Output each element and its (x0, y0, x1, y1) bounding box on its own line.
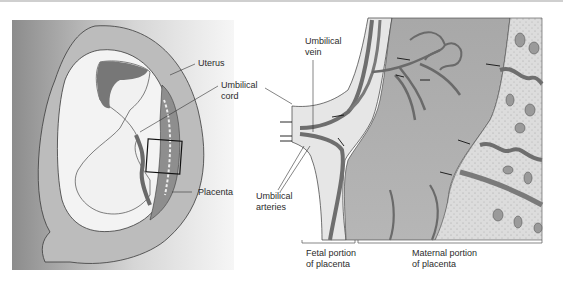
label-uterus: Uterus (198, 58, 225, 69)
left-panel-uterus (12, 20, 292, 270)
label-umbilical-vein: Umbilical vein (305, 36, 342, 58)
label-placenta: Placenta (198, 187, 233, 198)
label-maternal-portion: Maternal portion of placenta (412, 248, 477, 270)
label-fetal-portion: Fetal portion of placenta (306, 248, 356, 270)
placenta-diagram: Uterus Umbilical cord Placenta Umbilical… (0, 0, 563, 285)
diagram-artwork (0, 0, 563, 285)
label-umbilical-arteries: Umbilical arteries (256, 191, 293, 213)
label-umbilical-cord: Umbilical cord (221, 80, 258, 102)
